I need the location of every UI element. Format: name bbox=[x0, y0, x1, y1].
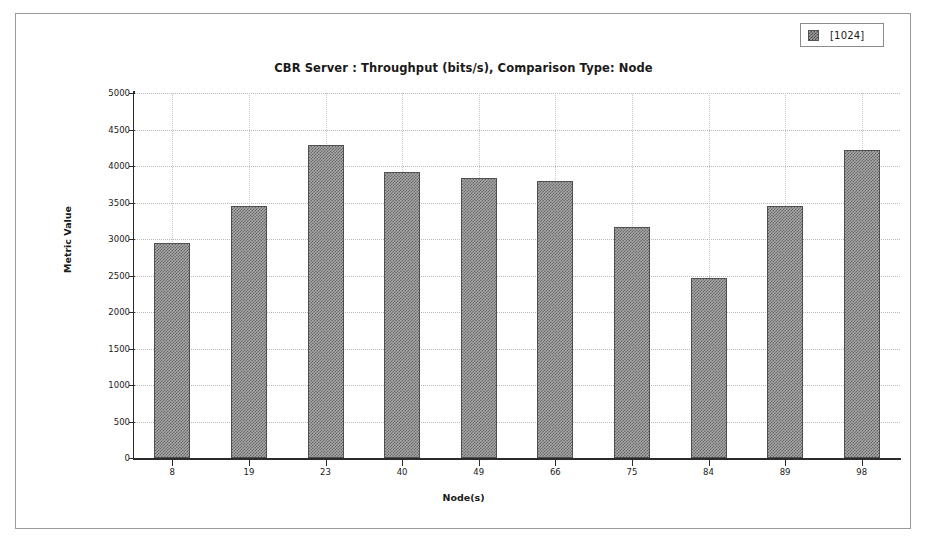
x-axis-tick-mark bbox=[862, 460, 863, 466]
y-axis-tick-label: 2500 bbox=[108, 271, 130, 281]
bar[interactable] bbox=[154, 243, 190, 458]
bar[interactable] bbox=[231, 206, 267, 458]
x-axis-tick-mark bbox=[172, 460, 173, 466]
y-axis-tick-mark bbox=[129, 422, 135, 423]
x-axis-tick-mark bbox=[326, 460, 327, 466]
y-axis-tick-label: 3000 bbox=[108, 234, 130, 244]
x-axis-tick-mark bbox=[709, 460, 710, 466]
x-axis-tick-label: 66 bbox=[550, 467, 561, 477]
y-axis-tick-mark bbox=[129, 239, 135, 240]
x-axis-tick-label: 40 bbox=[397, 467, 408, 477]
x-axis-tick-label: 23 bbox=[320, 467, 331, 477]
y-axis-tick-label: 2000 bbox=[108, 307, 130, 317]
chart-title: CBR Server : Throughput (bits/s), Compar… bbox=[0, 61, 927, 75]
x-axis-tick-label: 98 bbox=[856, 467, 867, 477]
x-axis-tick-label: 49 bbox=[473, 467, 484, 477]
y-axis-tick-label: 4500 bbox=[108, 125, 130, 135]
x-axis-tick-mark bbox=[249, 460, 250, 466]
chart-legend[interactable]: [1024] bbox=[800, 23, 884, 47]
x-axis-tick-mark bbox=[479, 460, 480, 466]
y-axis-tick-mark bbox=[129, 166, 135, 167]
x-axis-tick-label: 75 bbox=[626, 467, 637, 477]
bar[interactable] bbox=[691, 278, 727, 458]
bar[interactable] bbox=[461, 178, 497, 458]
x-axis-tick-mark bbox=[402, 460, 403, 466]
legend-swatch-icon bbox=[808, 30, 819, 41]
x-axis-title: Node(s) bbox=[0, 492, 927, 503]
y-axis-tick-label: 1500 bbox=[108, 344, 130, 354]
x-axis-tick-mark bbox=[632, 460, 633, 466]
y-axis-tick-mark bbox=[129, 93, 135, 94]
y-axis-tick-mark bbox=[129, 276, 135, 277]
x-axis-tick-label: 89 bbox=[780, 467, 791, 477]
y-axis-tick-label: 4000 bbox=[108, 161, 130, 171]
y-axis-tick-label: 1000 bbox=[108, 380, 130, 390]
y-axis-tick-mark bbox=[129, 385, 135, 386]
x-axis-tick-mark bbox=[785, 460, 786, 466]
x-axis-tick-mark bbox=[555, 460, 556, 466]
y-axis-tick-label: 5000 bbox=[108, 88, 130, 98]
x-axis-tick-label: 19 bbox=[243, 467, 254, 477]
bar[interactable] bbox=[844, 150, 880, 458]
bar[interactable] bbox=[384, 172, 420, 458]
y-axis-title: Metric Value bbox=[62, 195, 73, 285]
bar[interactable] bbox=[614, 227, 650, 458]
y-axis-tick-label: 3500 bbox=[108, 198, 130, 208]
bar[interactable] bbox=[767, 206, 803, 458]
x-axis-tick-label: 8 bbox=[170, 467, 175, 477]
legend-entry-label: [1024] bbox=[830, 30, 864, 41]
y-axis-tick-mark bbox=[129, 130, 135, 131]
bar[interactable] bbox=[537, 181, 573, 458]
y-axis-ticks: 0500100015002000250030003500400045005000 bbox=[88, 93, 130, 458]
x-axis-tick-label: 84 bbox=[703, 467, 714, 477]
y-axis-tick-mark bbox=[129, 312, 135, 313]
y-axis-tick-mark bbox=[129, 203, 135, 204]
chart-panel: [1024] CBR Server : Throughput (bits/s),… bbox=[0, 0, 927, 554]
y-axis-tick-mark bbox=[129, 458, 135, 459]
plot-area bbox=[134, 93, 900, 458]
y-axis-tick-label: 500 bbox=[114, 417, 130, 427]
bar[interactable] bbox=[308, 145, 344, 458]
y-axis-tick-mark bbox=[129, 349, 135, 350]
